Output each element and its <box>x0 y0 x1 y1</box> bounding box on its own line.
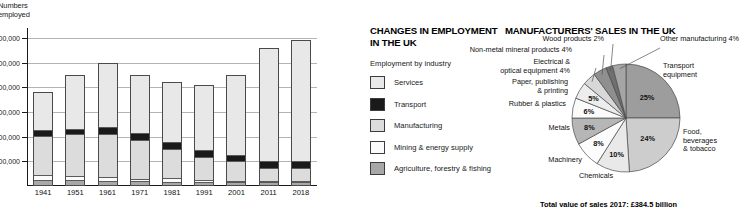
legend-item[interactable]: Manufacturing <box>370 115 510 137</box>
bar-segment <box>34 137 52 177</box>
pie-slice-label: Other manufacturing 4% <box>660 35 744 44</box>
bar-plot-area: 30,000,00025,000,00020,000,00015,000,000… <box>27 28 317 186</box>
y-axis-tick-label: 20,000,000 <box>0 84 20 91</box>
bar-column <box>291 40 311 186</box>
bar-segment <box>227 156 245 163</box>
x-axis-label: 1961 <box>99 188 116 198</box>
bar-segment <box>66 76 84 130</box>
bar-segment <box>260 183 278 185</box>
pie-graphic-area: 25%24%10%8%8%6%5%Transport equipmentFood… <box>500 0 733 218</box>
legend-item-label: Services <box>394 78 423 87</box>
pie-slice-label: Non-metal mineral products 4% <box>466 46 572 55</box>
x-axis-label: 1951 <box>67 188 84 198</box>
bar-segment <box>260 49 278 162</box>
pie-svg: 25%24%10%8%8%6%5% <box>500 0 733 218</box>
legend-swatch-icon <box>370 119 385 132</box>
pie-slice-value: 8% <box>593 139 604 148</box>
x-axis-label: 1971 <box>131 188 148 198</box>
bar-segment <box>292 169 310 182</box>
bar-segment <box>292 41 310 162</box>
bar-column <box>33 92 53 186</box>
bar-segment <box>163 183 181 185</box>
pie-slice <box>626 118 680 172</box>
bar-segment <box>227 76 245 156</box>
bar-column <box>194 85 214 186</box>
y-axis-tick-label: 10,000,000 <box>0 133 20 140</box>
bar-segment <box>227 162 245 181</box>
bar-segment <box>34 181 52 185</box>
bar-segment <box>195 86 213 152</box>
legend-item-label: Manufacturing <box>394 121 442 130</box>
pie-slice-value: 5% <box>588 94 599 103</box>
x-axis-label: 2011 <box>260 188 276 198</box>
bar-segment <box>163 83 181 143</box>
pie-slice-value: 8% <box>584 123 595 132</box>
bar-column <box>65 75 85 186</box>
pie-slice-value: 25% <box>640 93 655 102</box>
bar-column <box>98 63 118 186</box>
x-axis-label: 1991 <box>196 188 213 198</box>
bar-column <box>162 82 182 186</box>
bar-segment <box>66 181 84 185</box>
y-axis-tick-label: 25,000,000 <box>0 59 20 66</box>
bar-segment <box>99 182 117 185</box>
bar-segment <box>99 135 117 177</box>
bar-column <box>226 75 246 186</box>
bar-segment <box>260 169 278 182</box>
pie-slice-label: Transport equipment <box>663 62 731 79</box>
bar-segment <box>195 158 213 181</box>
pie-slice-label: Electrical & optical equipment 4% <box>478 58 570 75</box>
legend-swatch-icon <box>370 141 385 154</box>
pie-slice-label: Food, beverages & tobacco <box>683 128 735 154</box>
employment-bar-chart: Numbers employed 30,000,00025,000,00020,… <box>0 0 348 218</box>
pie-slice-label: Wood products 2% <box>512 35 604 44</box>
bar-segment <box>131 141 149 179</box>
bar-segment <box>99 128 117 135</box>
pie-slice-label: Paper, publishing & printing <box>476 78 568 95</box>
legend-swatch-icon <box>370 162 385 175</box>
y-axis-title: Numbers employed <box>0 1 30 19</box>
pie-total-note: Total value of sales 2017: £384.5 billio… <box>540 200 733 209</box>
pie-slice-label: Chemicals <box>566 172 626 181</box>
bar-series-group <box>27 28 317 186</box>
bar-column <box>259 48 279 186</box>
bar-segment <box>131 76 149 134</box>
pie-slice-label: Machinery <box>510 156 582 165</box>
pie-slice-value: 6% <box>584 107 595 116</box>
legend-swatch-icon <box>370 76 385 89</box>
bar-segment <box>34 93 52 131</box>
pie-slice-label: Rubber & plastics <box>470 100 566 109</box>
bar-segment <box>131 182 149 185</box>
bar-segment <box>292 162 310 169</box>
pie-slice-value: 10% <box>609 150 624 159</box>
x-axis-label: 1941 <box>35 188 52 198</box>
bar-segment <box>260 162 278 169</box>
x-axis-label: 1981 <box>164 188 181 198</box>
legend-item-label: Mining & energy supply <box>394 143 473 152</box>
y-axis-tick-label: 30,000,000 <box>0 34 20 41</box>
pie-slice-value: 24% <box>640 134 655 143</box>
pie-slice-label: Metals <box>508 124 570 133</box>
bar-segment <box>163 150 181 180</box>
bar-column <box>130 75 150 186</box>
legend-item-label: Agriculture, forestry & fishing <box>394 164 491 173</box>
legend-subtitle: Employment by industry <box>370 59 451 68</box>
y-axis-tick-label: 15,000,000 <box>0 108 20 115</box>
x-axis-label: 2001 <box>228 188 245 198</box>
bar-segment <box>292 183 310 185</box>
legend-item-label: Transport <box>394 100 426 109</box>
bar-segment <box>99 64 117 129</box>
x-axis-labels: 194119511961197119811991200120112018 <box>27 188 317 202</box>
bar-segment <box>227 183 245 185</box>
manufacturers-sales-pie-chart: MANUFACTURERS' SALES IN THE UK 25%24%10%… <box>500 0 733 218</box>
bar-segment <box>66 135 84 177</box>
legend-swatch-icon <box>370 98 385 111</box>
bar-segment <box>131 134 149 141</box>
x-axis-label: 2018 <box>292 188 309 198</box>
employment-legend-panel: CHANGES IN EMPLOYMENT IN THE UK Employme… <box>348 0 500 218</box>
bar-segment <box>195 183 213 185</box>
legend-item[interactable]: Mining & energy supply <box>370 137 510 159</box>
y-axis-tick-label: 5,000,000 <box>0 158 20 165</box>
legend-item[interactable]: Agriculture, forestry & fishing <box>370 158 510 180</box>
